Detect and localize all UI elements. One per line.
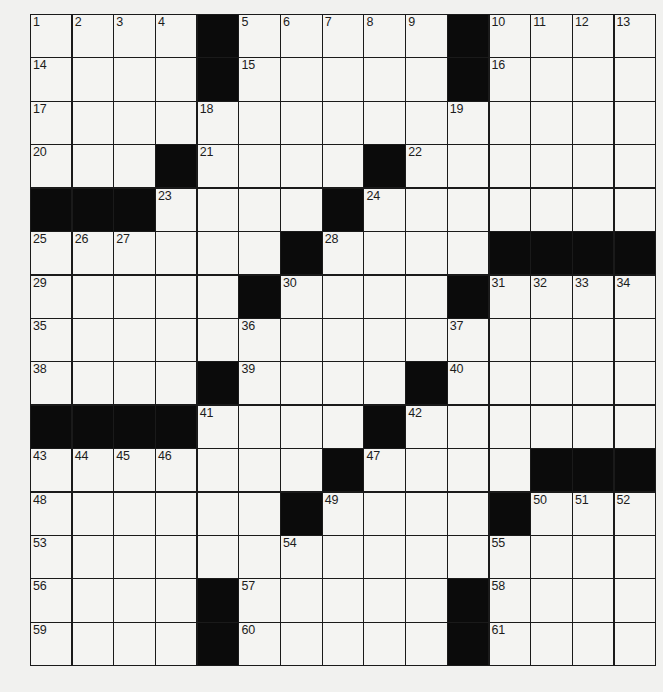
crossword-cell[interactable] [406,102,446,144]
crossword-cell[interactable]: 18 [198,102,238,144]
crossword-cell[interactable] [531,406,571,448]
crossword-cell[interactable]: 42 [406,406,446,448]
crossword-cell[interactable] [239,102,279,144]
crossword-cell[interactable] [448,232,488,274]
crossword-cell[interactable] [490,362,530,404]
crossword-cell[interactable] [573,362,613,404]
crossword-cell[interactable] [281,145,321,187]
crossword-cell[interactable] [406,536,446,578]
crossword-cell[interactable]: 47 [364,449,404,491]
crossword-cell[interactable] [531,102,571,144]
crossword-cell[interactable] [406,232,446,274]
crossword-cell[interactable]: 14 [31,58,71,100]
crossword-cell[interactable] [239,189,279,231]
crossword-cell[interactable] [281,362,321,404]
crossword-cell[interactable] [198,493,238,535]
crossword-cell[interactable]: 11 [531,15,571,57]
crossword-cell[interactable] [281,579,321,621]
crossword-cell[interactable]: 30 [281,276,321,318]
crossword-cell[interactable] [114,145,154,187]
crossword-cell[interactable] [198,319,238,361]
crossword-cell[interactable] [281,189,321,231]
crossword-cell[interactable] [364,579,404,621]
crossword-cell[interactable]: 22 [406,145,446,187]
crossword-cell[interactable] [448,493,488,535]
crossword-cell[interactable] [406,276,446,318]
crossword-cell[interactable]: 39 [239,362,279,404]
crossword-cell[interactable] [156,232,196,274]
crossword-cell[interactable] [323,536,363,578]
crossword-cell[interactable]: 54 [281,536,321,578]
crossword-cell[interactable] [239,406,279,448]
crossword-cell[interactable] [114,362,154,404]
crossword-cell[interactable]: 56 [31,579,71,621]
crossword-cell[interactable] [156,623,196,665]
crossword-cell[interactable]: 29 [31,276,71,318]
crossword-cell[interactable] [615,579,655,621]
crossword-cell[interactable]: 15 [239,58,279,100]
crossword-cell[interactable] [490,102,530,144]
crossword-cell[interactable] [323,145,363,187]
crossword-cell[interactable] [364,232,404,274]
crossword-cell[interactable]: 25 [31,232,71,274]
crossword-cell[interactable] [531,58,571,100]
crossword-cell[interactable]: 2 [73,15,113,57]
crossword-cell[interactable] [448,406,488,448]
crossword-cell[interactable] [573,579,613,621]
crossword-cell[interactable] [615,362,655,404]
crossword-cell[interactable] [114,623,154,665]
crossword-cell[interactable] [114,536,154,578]
crossword-cell[interactable]: 26 [73,232,113,274]
crossword-cell[interactable]: 24 [364,189,404,231]
crossword-cell[interactable] [114,579,154,621]
crossword-cell[interactable]: 45 [114,449,154,491]
crossword-cell[interactable] [364,536,404,578]
crossword-cell[interactable]: 46 [156,449,196,491]
crossword-cell[interactable] [406,493,446,535]
crossword-cell[interactable]: 7 [323,15,363,57]
crossword-cell[interactable] [573,145,613,187]
crossword-cell[interactable] [114,102,154,144]
crossword-cell[interactable] [239,493,279,535]
crossword-cell[interactable] [73,102,113,144]
crossword-cell[interactable]: 33 [573,276,613,318]
crossword-cell[interactable]: 23 [156,189,196,231]
crossword-cell[interactable] [448,189,488,231]
crossword-cell[interactable] [406,319,446,361]
crossword-cell[interactable] [73,536,113,578]
crossword-cell[interactable] [364,623,404,665]
crossword-cell[interactable] [531,623,571,665]
crossword-cell[interactable]: 53 [31,536,71,578]
crossword-cell[interactable]: 52 [615,493,655,535]
crossword-cell[interactable] [114,58,154,100]
crossword-cell[interactable] [239,449,279,491]
crossword-cell[interactable]: 8 [364,15,404,57]
crossword-cell[interactable] [156,276,196,318]
crossword-cell[interactable] [406,449,446,491]
crossword-cell[interactable]: 1 [31,15,71,57]
crossword-cell[interactable]: 20 [31,145,71,187]
crossword-cell[interactable] [114,319,154,361]
crossword-cell[interactable]: 41 [198,406,238,448]
crossword-cell[interactable] [406,189,446,231]
crossword-cell[interactable]: 60 [239,623,279,665]
crossword-cell[interactable]: 38 [31,362,71,404]
crossword-cell[interactable]: 32 [531,276,571,318]
crossword-cell[interactable] [573,406,613,448]
crossword-cell[interactable] [239,145,279,187]
crossword-cell[interactable] [448,536,488,578]
crossword-cell[interactable] [323,406,363,448]
crossword-cell[interactable] [406,58,446,100]
crossword-cell[interactable]: 21 [198,145,238,187]
crossword-cell[interactable]: 44 [73,449,113,491]
crossword-cell[interactable] [73,145,113,187]
crossword-cell[interactable] [73,319,113,361]
crossword-cell[interactable] [615,145,655,187]
crossword-cell[interactable]: 51 [573,493,613,535]
crossword-cell[interactable] [531,319,571,361]
crossword-cell[interactable] [573,58,613,100]
crossword-cell[interactable]: 6 [281,15,321,57]
crossword-cell[interactable] [156,493,196,535]
crossword-cell[interactable] [198,276,238,318]
crossword-cell[interactable]: 36 [239,319,279,361]
